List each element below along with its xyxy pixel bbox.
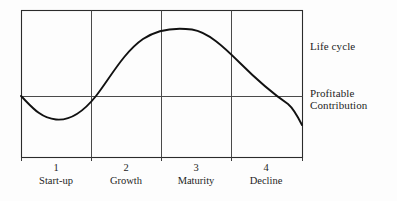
stage-number-2: 2: [91, 162, 161, 173]
life-cycle-label-text: Life cycle: [310, 40, 355, 52]
stage-name-3: Maturity: [161, 175, 231, 186]
stage-caption-growth: 2 Growth: [91, 162, 161, 186]
stage-number-1: 1: [21, 162, 91, 173]
life-cycle-label: Life cycle: [310, 41, 355, 53]
stage-number-3: 3: [161, 162, 231, 173]
profitable-contribution-label-line1: Profitable: [310, 87, 354, 99]
stage-caption-decline: 4 Decline: [231, 162, 301, 186]
lifecycle-chart-figure: Life cycle Profitable Contribution 1 Sta…: [0, 0, 397, 201]
stage-caption-startup: 1 Start-up: [21, 162, 91, 186]
profitable-contribution-label: Profitable Contribution: [310, 88, 367, 111]
stage-name-4: Decline: [231, 175, 301, 186]
profitable-contribution-label-line2: Contribution: [310, 100, 367, 112]
stage-caption-maturity: 3 Maturity: [161, 162, 231, 186]
stage-number-4: 4: [231, 162, 301, 173]
stage-name-2: Growth: [91, 175, 161, 186]
stage-name-1: Start-up: [21, 175, 91, 186]
